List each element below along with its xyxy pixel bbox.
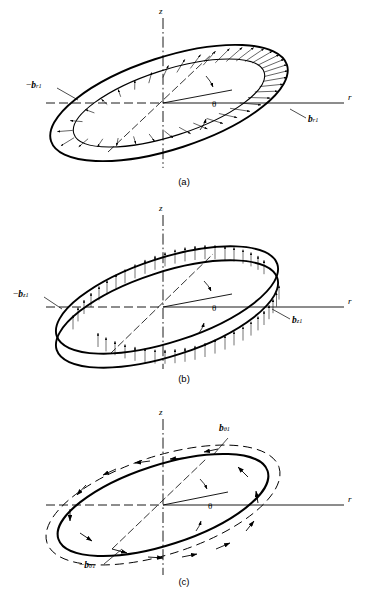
- r-axis-label-c: r: [348, 494, 352, 504]
- b-subscript: z1: [23, 291, 29, 298]
- r-axis-label-b: r: [348, 296, 352, 306]
- b-subscript: r1: [313, 116, 319, 123]
- b-r1-negative-label-a: −br1: [26, 80, 42, 90]
- leader-neg-a: [57, 88, 78, 100]
- theta-reference-line-b: [110, 254, 213, 354]
- theta-arc-upper-c: [200, 479, 207, 489]
- theta-ray-a: [163, 90, 232, 103]
- theta-arc-lower-c: [196, 521, 201, 531]
- tangential-flux-arrows-c: [70, 449, 258, 558]
- radial-flux-arrows-a: [47, 30, 298, 174]
- b-z1-negative-label-b: −bz1: [13, 289, 29, 299]
- leader-pos-c: [214, 438, 228, 454]
- leader-pos-a: [290, 109, 306, 118]
- lower-ellipse-b: [44, 238, 291, 390]
- z-axis-label-a: z: [158, 6, 163, 16]
- theta-arc-upper-a: [206, 76, 213, 87]
- b-subscript: r1: [36, 82, 42, 89]
- b-theta1-positive-label-c: bθ1: [219, 423, 230, 433]
- b-subscript: z1: [297, 317, 303, 324]
- theta-reference-line-c: [112, 459, 206, 549]
- b-subscript: θ1: [224, 425, 230, 432]
- caption-a: (a): [0, 176, 368, 187]
- flux-density-components-figure: θ z r −br1 br1 (a): [0, 0, 368, 599]
- theta-label-b: θ: [212, 303, 216, 313]
- b-z1-positive-label-b: bz1: [292, 315, 302, 325]
- r-axis-label-a: r: [348, 92, 352, 102]
- b-r1-positive-label-a: br1: [308, 114, 318, 124]
- upper-ellipse-b: [44, 224, 291, 376]
- leader-pos-b: [272, 309, 290, 319]
- panel-b-axial: θ z r −bz1 bz1: [0, 197, 368, 397]
- caption-c: (c): [0, 576, 368, 587]
- theta-label-a: θ: [212, 99, 216, 109]
- caption-b: (b): [0, 373, 368, 384]
- theta-reference-line-a: [108, 53, 213, 152]
- z-axis-label-c: z: [158, 407, 163, 417]
- panel-a-radial: θ z r −br1 br1: [0, 0, 368, 197]
- panel-c-tangential: θ z r bθ1 −bθ1: [0, 397, 368, 599]
- theta-label-c: θ: [208, 501, 212, 511]
- theta-ray-b: [163, 294, 232, 307]
- z-axis-label-b: z: [158, 203, 163, 213]
- theta-ray-c: [163, 492, 228, 505]
- b-theta1-negative-label-c: −bθ1: [79, 560, 95, 570]
- b-subscript: θ1: [89, 562, 95, 569]
- theta-arc-upper-b: [204, 281, 211, 291]
